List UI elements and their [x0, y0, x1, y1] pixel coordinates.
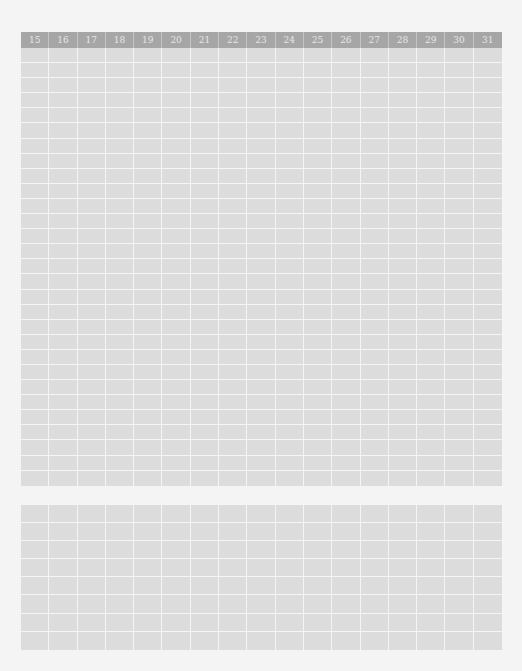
grid-cell: [361, 632, 389, 650]
grid-cell: [78, 290, 106, 305]
grid-cell: [276, 440, 304, 455]
grid-cell: [445, 123, 473, 138]
grid-cell: [417, 380, 445, 395]
grid-cell: [276, 505, 304, 523]
grid-cell: [106, 63, 134, 78]
grid-cell: [106, 154, 134, 169]
grid-cell: [21, 471, 49, 486]
grid-cell: [162, 365, 190, 380]
grid-cell: [219, 123, 247, 138]
grid-cell: [191, 154, 219, 169]
grid-cell: [304, 244, 332, 259]
grid-cell: [276, 290, 304, 305]
grid-cell: [389, 410, 417, 425]
grid-cell: [389, 614, 417, 632]
day-header-26: 26: [332, 32, 360, 48]
grid-cell: [219, 410, 247, 425]
day-header-22: 22: [219, 32, 247, 48]
grid-cell: [191, 63, 219, 78]
grid-cell: [191, 169, 219, 184]
grid-cell: [134, 365, 162, 380]
grid-cell: [445, 214, 473, 229]
grid-cell: [389, 380, 417, 395]
grid-cell: [49, 365, 77, 380]
grid-cell: [191, 595, 219, 613]
grid-cell: [78, 559, 106, 577]
grid-cell: [417, 305, 445, 320]
grid-cell: [304, 410, 332, 425]
grid-cell: [49, 154, 77, 169]
grid-cell: [219, 440, 247, 455]
grid-cell: [445, 244, 473, 259]
grid-cell: [332, 505, 360, 523]
grid-cell: [247, 108, 275, 123]
grid-cell: [134, 139, 162, 154]
grid-cell: [106, 595, 134, 613]
grid-cell: [247, 290, 275, 305]
grid-cell: [332, 440, 360, 455]
grid-cell: [304, 108, 332, 123]
grid-cell: [219, 214, 247, 229]
grid-cell: [247, 244, 275, 259]
grid-cell: [78, 410, 106, 425]
grid-cell: [474, 123, 502, 138]
grid-cell: [78, 108, 106, 123]
grid-cell: [134, 632, 162, 650]
grid-cell: [21, 410, 49, 425]
grid-cell: [332, 410, 360, 425]
grid-cell: [247, 350, 275, 365]
grid-cell: [78, 274, 106, 289]
grid-cell: [304, 425, 332, 440]
grid-cell: [417, 139, 445, 154]
grid-cell: [361, 440, 389, 455]
grid-cell: [445, 63, 473, 78]
grid-cell: [332, 471, 360, 486]
grid-cell: [162, 139, 190, 154]
grid-cell: [445, 614, 473, 632]
grid-cell: [134, 410, 162, 425]
grid-cell: [162, 577, 190, 595]
grid-cell: [389, 244, 417, 259]
grid-cell: [332, 395, 360, 410]
grid-cell: [49, 471, 77, 486]
grid-cell: [304, 169, 332, 184]
grid-cell: [49, 541, 77, 559]
grid-cell: [219, 184, 247, 199]
grid-cell: [134, 395, 162, 410]
grid-cell: [276, 425, 304, 440]
grid-cell: [417, 456, 445, 471]
grid-cell: [247, 154, 275, 169]
grid-cell: [219, 425, 247, 440]
grid-cell: [361, 63, 389, 78]
grid-cell: [78, 48, 106, 63]
grid-cell: [332, 523, 360, 541]
grid-cell: [332, 48, 360, 63]
grid-cell: [389, 169, 417, 184]
notes-grid: [21, 505, 502, 650]
grid-cell: [78, 78, 106, 93]
grid-cell: [219, 229, 247, 244]
grid-cell: [162, 93, 190, 108]
grid-cell: [474, 440, 502, 455]
grid-cell: [134, 559, 162, 577]
grid-cell: [361, 139, 389, 154]
grid-cell: [191, 108, 219, 123]
grid-cell: [21, 523, 49, 541]
grid-cell: [21, 63, 49, 78]
grid-cell: [417, 505, 445, 523]
grid-cell: [474, 505, 502, 523]
grid-cell: [49, 410, 77, 425]
grid-cell: [445, 169, 473, 184]
grid-cell: [219, 244, 247, 259]
grid-cell: [162, 632, 190, 650]
grid-cell: [191, 440, 219, 455]
grid-cell: [276, 305, 304, 320]
grid-cell: [332, 184, 360, 199]
grid-cell: [445, 440, 473, 455]
grid-cell: [134, 199, 162, 214]
grid-cell: [474, 184, 502, 199]
grid-cell: [78, 632, 106, 650]
grid-cell: [162, 154, 190, 169]
grid-cell: [106, 505, 134, 523]
grid-cell: [219, 395, 247, 410]
